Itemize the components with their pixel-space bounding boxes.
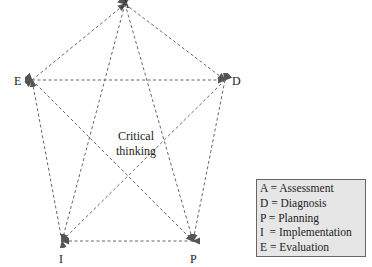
node-label-d: D [232,75,241,87]
legend-item-evaluation: E = Evaluation [260,240,362,255]
edge-e-a [32,4,125,80]
center-label-line1: Critical [96,129,176,144]
edge-i-e [32,80,62,241]
edge-e-p [32,80,193,241]
legend-item-implementation: I = Implementation [260,225,362,240]
node-label-e: E [14,75,21,87]
center-label: Critical thinking [96,129,176,159]
node-label-p: P [190,253,197,265]
connection-lines [32,4,225,241]
edge-a-d [125,4,225,80]
node-label-i: I [59,253,63,265]
edge-d-p [193,80,225,241]
legend-item-assessment: A = Assessment [260,181,362,196]
edge-a-p [125,4,193,241]
center-label-line2: thinking [96,144,176,159]
node-label-a: A [121,0,130,10]
legend-item-diagnosis: D = Diagnosis [260,196,362,211]
edge-a-i [62,4,125,241]
legend-item-planning: P = Planning [260,211,362,226]
legend-box: A = Assessment D = Diagnosis P = Plannin… [256,179,366,257]
edge-d-i [62,80,225,241]
